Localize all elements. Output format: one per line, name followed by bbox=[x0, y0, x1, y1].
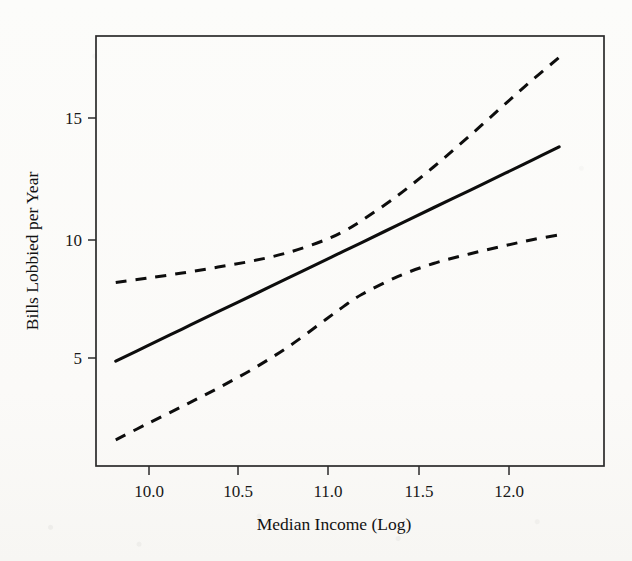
plot-frame bbox=[96, 36, 604, 466]
y-axis-ticks bbox=[88, 118, 96, 358]
x-tick-label-11-5: 11.5 bbox=[404, 482, 433, 501]
y-tick-label-15: 15 bbox=[65, 109, 82, 128]
figure-container: 5 10 15 10.0 10.5 11.0 11.5 12.0 Median … bbox=[0, 0, 632, 561]
x-axis-ticks bbox=[149, 466, 509, 475]
x-tick-label-12-0: 12.0 bbox=[494, 482, 524, 501]
y-tick-label-5: 5 bbox=[74, 349, 83, 368]
x-tick-label-11-0: 11.0 bbox=[313, 482, 342, 501]
lower-confidence-curve bbox=[116, 235, 559, 440]
predicted-fit-line bbox=[116, 147, 559, 361]
data-curves bbox=[116, 57, 559, 439]
x-tick-label-10-0: 10.0 bbox=[134, 482, 164, 501]
chart-canvas: 5 10 15 10.0 10.5 11.0 11.5 12.0 Median … bbox=[0, 0, 632, 561]
x-axis-title: Median Income (Log) bbox=[257, 514, 412, 534]
x-tick-label-10-5: 10.5 bbox=[223, 482, 253, 501]
y-axis-title: Bills Lobbied per Year bbox=[22, 172, 42, 331]
y-tick-label-10: 10 bbox=[65, 231, 82, 250]
